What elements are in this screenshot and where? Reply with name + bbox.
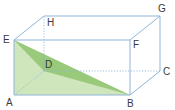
vertex-label-h: H [47, 17, 54, 28]
vertex-label-f: F [133, 39, 139, 50]
edge-bc [130, 71, 160, 95]
vertex-label-e: E [3, 34, 10, 45]
vertex-label-d: D [45, 59, 52, 70]
vertex-label-b: B [127, 98, 134, 109]
vertex-label-a: A [6, 97, 13, 108]
edge-fg [130, 16, 160, 40]
edge-eh [14, 16, 44, 40]
vertex-label-g: G [158, 3, 166, 14]
vertex-label-c: C [163, 66, 170, 77]
cuboid-diagram: E A B C D F G H [0, 0, 175, 110]
